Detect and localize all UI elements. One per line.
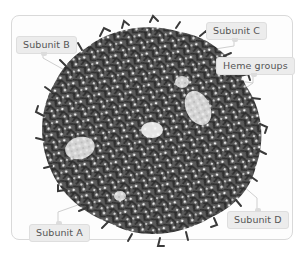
label-subunit-d-text: Subunit D: [234, 214, 282, 225]
label-heme-groups: Heme groups: [216, 57, 295, 75]
label-anchor: [232, 38, 238, 42]
central-cavity: [141, 122, 163, 138]
label-subunit-d: Subunit D: [227, 211, 289, 229]
label-anchor: [41, 52, 47, 56]
label-heme-groups-text: Heme groups: [223, 60, 288, 71]
label-subunit-a: Subunit A: [29, 224, 90, 242]
label-anchor: [251, 73, 257, 77]
label-anchor: [255, 208, 261, 212]
label-subunit-b-text: Subunit B: [23, 39, 70, 50]
label-subunit-b: Subunit B: [16, 36, 77, 54]
label-subunit-c-text: Subunit C: [213, 25, 260, 36]
label-anchor: [56, 221, 62, 225]
label-subunit-a-text: Subunit A: [36, 227, 83, 238]
label-subunit-c: Subunit C: [206, 22, 267, 40]
